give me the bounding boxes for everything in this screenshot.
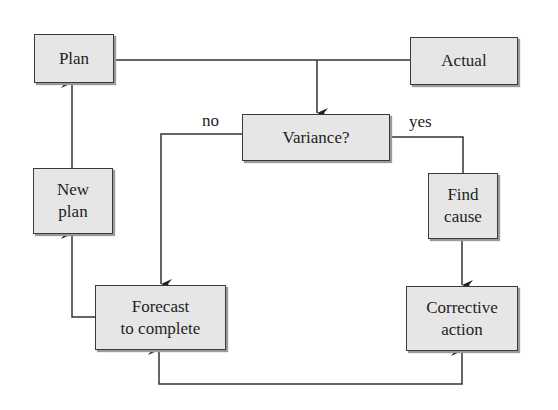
node-variance: Variance?	[242, 114, 390, 161]
node-plan-label: Plan	[59, 48, 89, 70]
edge-label-yes: yes	[409, 112, 432, 132]
node-forecast-line2: to complete	[121, 318, 201, 340]
arrow-corrective-forecast-loop	[159, 350, 462, 384]
node-actual: Actual	[410, 37, 518, 85]
node-plan: Plan	[34, 34, 114, 83]
node-find-cause-line2: cause	[444, 206, 482, 228]
node-forecast: Forecast to complete	[95, 285, 226, 350]
arrow-no-to-forecast	[161, 134, 242, 284]
node-variance-label: Variance?	[282, 127, 349, 149]
node-forecast-line1: Forecast	[132, 296, 190, 318]
node-corrective-line2: action	[441, 319, 483, 341]
edge-label-no: no	[202, 111, 219, 131]
node-find-cause: Find cause	[428, 173, 498, 239]
node-corrective-line1: Corrective	[426, 297, 498, 319]
node-new-plan: New plan	[33, 168, 113, 234]
node-new-plan-line1: New	[57, 179, 89, 201]
node-new-plan-line2: plan	[58, 201, 87, 223]
node-find-cause-line1: Find	[447, 184, 478, 206]
node-actual-label: Actual	[441, 50, 486, 72]
line-yes-to-find-cause	[390, 137, 463, 173]
arrow-forecast-to-newplan	[72, 234, 95, 317]
node-corrective: Corrective action	[406, 286, 518, 351]
